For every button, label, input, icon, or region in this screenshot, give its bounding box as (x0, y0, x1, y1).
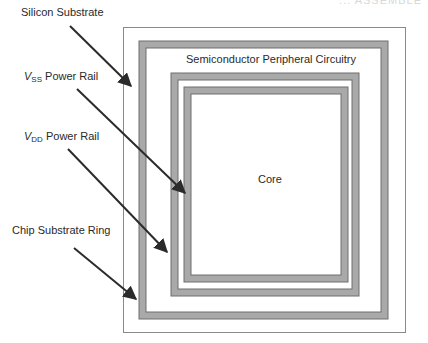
vdd-text: Power Rail (43, 130, 99, 142)
chip-diagram (0, 0, 428, 343)
vss-subscript: SS (31, 75, 42, 84)
label-silicon-substrate: Silicon Substrate (21, 6, 104, 18)
label-vss-power-rail: VSS Power Rail (24, 70, 98, 84)
label-chip-substrate-ring: Chip Substrate Ring (12, 224, 110, 236)
label-vdd-power-rail: VDD Power Rail (24, 130, 99, 144)
vss-text: Power Rail (42, 70, 98, 82)
label-peripheral-circuitry: Semiconductor Peripheral Circuitry (186, 53, 356, 65)
vdd-subscript: DD (31, 135, 43, 144)
label-core: Core (258, 173, 282, 185)
